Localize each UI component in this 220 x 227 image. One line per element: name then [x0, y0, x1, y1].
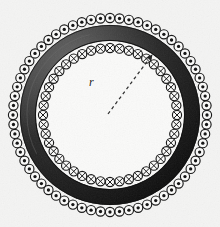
toroid-diagram-svg: r	[0, 0, 220, 227]
paper-grain-overlay	[0, 0, 220, 227]
toroid-figure: r	[0, 0, 220, 227]
